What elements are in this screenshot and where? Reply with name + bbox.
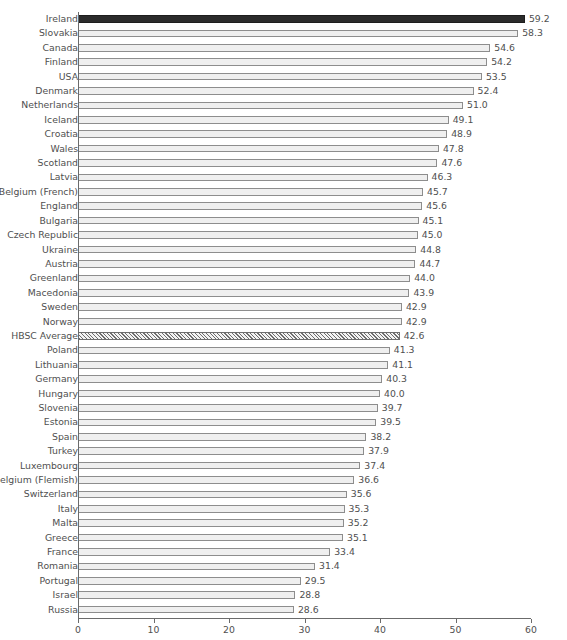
bar	[78, 404, 378, 412]
bar	[78, 174, 428, 182]
bar-container: 44.8	[78, 243, 567, 257]
bar-row: Hungary40.0	[0, 387, 567, 401]
x-tick-mark	[456, 619, 457, 623]
bar-value-label: 31.4	[319, 559, 340, 573]
bar	[78, 289, 409, 297]
category-label: Lithuania	[35, 358, 78, 372]
bar-container: 43.9	[78, 286, 567, 300]
category-label: Croatia	[45, 127, 78, 141]
category-label: Austria	[45, 257, 78, 271]
bar-container: 41.1	[78, 358, 567, 372]
bar	[78, 361, 388, 369]
bar	[78, 433, 366, 441]
bar-value-label: 45.0	[422, 228, 443, 242]
category-label: Denmark	[35, 84, 78, 98]
x-tick-label: 0	[75, 624, 81, 635]
category-label: Switzerland	[24, 487, 78, 501]
bar-container: 51.0	[78, 98, 567, 112]
y-axis-line	[78, 12, 79, 618]
bar-row: Romania31.4	[0, 559, 567, 573]
category-label: Slovenia	[38, 401, 78, 415]
bar-value-label: 28.8	[299, 588, 320, 602]
bar	[78, 491, 347, 499]
bar-container: 35.1	[78, 531, 567, 545]
bar-row: Croatia48.9	[0, 127, 567, 141]
bar	[78, 73, 482, 81]
bar-row: Scotland47.6	[0, 156, 567, 170]
bar-container: 37.9	[78, 444, 567, 458]
bar-container: 45.6	[78, 199, 567, 213]
bar	[78, 145, 439, 153]
category-label: Wales	[51, 142, 78, 156]
bar-container: 28.6	[78, 603, 567, 617]
bar-value-label: 43.9	[413, 286, 434, 300]
category-label: Italy	[58, 502, 78, 516]
bar-container: 53.5	[78, 70, 567, 84]
category-label: Finland	[45, 55, 78, 69]
x-tick-label: 30	[299, 624, 311, 635]
bar-row: HBSC Average42.6	[0, 329, 567, 343]
bar-row: Malta35.2	[0, 516, 567, 530]
bar	[78, 217, 419, 225]
bar-row: Canada54.6	[0, 41, 567, 55]
bar-container: 35.2	[78, 516, 567, 530]
bar-value-label: 40.3	[386, 372, 407, 386]
bar-value-label: 53.5	[486, 70, 507, 84]
bar	[78, 58, 487, 66]
bar-container: 59.2	[78, 12, 567, 26]
bar-row: Denmark52.4	[0, 84, 567, 98]
bar-value-label: 29.5	[305, 574, 326, 588]
bar-container: 40.0	[78, 387, 567, 401]
category-label: Slovakia	[39, 26, 78, 40]
bar-value-label: 54.2	[491, 55, 512, 69]
bar-row: Wales47.8	[0, 142, 567, 156]
bar-container: 45.0	[78, 228, 567, 242]
x-tick-label: 40	[374, 624, 386, 635]
category-label: USA	[59, 70, 78, 84]
bar	[78, 231, 418, 239]
bar	[78, 375, 382, 383]
bar-value-label: 40.0	[384, 387, 405, 401]
bar-container: 45.1	[78, 214, 567, 228]
bar-value-label: 44.0	[414, 271, 435, 285]
bar-value-label: 35.2	[348, 516, 369, 530]
bar	[78, 447, 364, 455]
bar-container: 39.7	[78, 401, 567, 415]
bar	[78, 577, 301, 585]
bar-row: Germany40.3	[0, 372, 567, 386]
bar-value-label: 46.3	[432, 170, 453, 184]
bar-container: 54.2	[78, 55, 567, 69]
x-tick-label: 50	[450, 624, 462, 635]
x-tick-mark	[154, 619, 155, 623]
bar	[78, 519, 344, 527]
bar-value-label: 42.9	[406, 315, 427, 329]
category-label: Canada	[43, 41, 78, 55]
bar-value-label: 44.7	[419, 257, 440, 271]
bar-value-label: 44.8	[420, 243, 441, 257]
category-label: Hungary	[38, 387, 78, 401]
bar-row: Estonia39.5	[0, 415, 567, 429]
bar-container: 47.8	[78, 142, 567, 156]
category-label: Ireland	[46, 12, 78, 26]
category-label: Malta	[52, 516, 78, 530]
bar	[78, 30, 518, 38]
bar-row: Greece35.1	[0, 531, 567, 545]
bar-value-label: 33.4	[334, 545, 355, 559]
bar-row: Belgium (Flemish)36.6	[0, 473, 567, 487]
bar	[78, 246, 416, 254]
bar-value-label: 45.7	[427, 185, 448, 199]
x-tick-label: 20	[223, 624, 235, 635]
bar-row: Macedonia43.9	[0, 286, 567, 300]
x-tick-label: 10	[148, 624, 160, 635]
bar-row: England45.6	[0, 199, 567, 213]
bar-value-label: 38.2	[370, 430, 391, 444]
bar-container: 37.4	[78, 459, 567, 473]
bar	[78, 260, 415, 268]
category-label: Greece	[45, 531, 78, 545]
bar-value-label: 39.7	[382, 401, 403, 415]
bar	[78, 318, 402, 326]
category-label: Ukraine	[42, 243, 78, 257]
bar-row: Norway42.9	[0, 315, 567, 329]
cut-off-header-text	[0, 0, 567, 9]
bar-container: 35.6	[78, 487, 567, 501]
